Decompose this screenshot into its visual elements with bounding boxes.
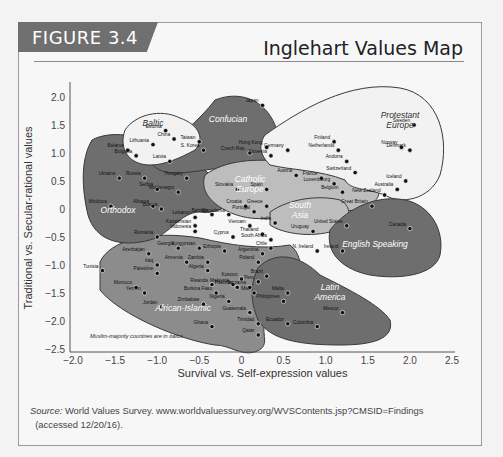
point-label: Azerbaijan [122,247,145,252]
point-marker [286,322,290,326]
point-marker [382,193,386,197]
point-marker [260,103,264,107]
point-marker [155,263,159,267]
point-label: Chile [256,241,267,246]
point-label: Kyrgyzstan [172,241,196,246]
point-marker [273,221,277,225]
point-marker [269,246,273,250]
y-tick-label: 2.0 [51,92,65,103]
point-marker [408,226,412,230]
point-label: Russia [126,171,141,176]
source-text: World Values Survey. www.worldvaluessurv… [62,405,423,416]
point-marker [193,224,197,228]
x-tick-label: 0.5 [277,355,291,366]
y-tick-label: −0.5 [45,232,65,243]
point-marker [168,159,172,163]
point-marker [176,190,180,194]
point-marker [265,187,269,191]
x-tick-label: −1.0 [147,355,167,366]
point-label: Rwanda [190,278,208,283]
x-tick-label: 0 [239,355,245,366]
y-tick-label: −1.5 [45,288,65,299]
point-marker [206,260,210,264]
point-marker [286,148,290,152]
point-label: Tunisia [83,264,99,269]
y-axis-title: Traditional vs. Secular-rational values [22,126,34,310]
point-label: United States [314,219,343,224]
point-marker [286,291,290,295]
x-tick-label: −2.0 [63,355,83,366]
point-label: Indonesia [170,224,191,229]
point-label: Mexico [323,306,339,311]
point-marker [142,176,146,180]
point-label: Romania [134,230,154,235]
point-label: Montenegro [149,185,175,190]
point-marker [269,154,273,158]
point-label: Switzerland [326,166,351,171]
point-marker [206,268,210,272]
point-label: Bulgaria [115,149,133,154]
point-label: Colombia [293,320,314,325]
y-tick-label: −2.5 [45,344,65,355]
point-label: Qatar [242,328,254,333]
point-label: Japan [245,98,258,103]
point-label: Iraq [145,258,154,263]
point-marker [231,235,235,239]
point-label: Hungary [165,171,184,176]
point-marker [172,137,176,141]
point-marker [256,322,260,326]
point-marker [210,324,214,328]
y-tick-label: 0.5 [51,176,65,187]
point-label: Ukraine [99,171,116,176]
point-marker [197,246,201,250]
point-marker [256,280,260,284]
point-marker [340,190,344,194]
point-marker [134,154,138,158]
y-tick-label: −2.0 [45,316,65,327]
x-axis-title: Survival vs. Self-expression values [178,367,348,379]
point-marker [315,324,319,328]
values-map-chart: JapanEstoniaLithuaniaChinaTaiwanS. Korea… [0,0,503,457]
point-label: Burkina Faso [184,286,213,291]
point-marker [269,238,273,242]
point-label: Andorra [326,154,343,159]
region-label: Confucian [209,114,248,124]
point-marker [353,170,357,174]
region-label: Baltic [143,118,165,128]
point-label: Ecuador [266,317,284,322]
point-label: Nigeria [210,294,226,299]
point-label: Brazil [251,269,263,274]
point-marker [235,285,239,289]
point-label: Malta [272,286,284,291]
point-label: Tanzania [227,280,247,285]
point-label: Kosovo [221,272,237,277]
region-label: CatholicEurope [235,174,266,194]
source-note: Source: World Values Survey. www.worldva… [30,404,470,432]
point-label: Belarus [107,143,124,148]
x-tick-label: 1.5 [361,355,375,366]
point-label: Poland [239,255,254,260]
region-label: English Speaking [342,239,408,249]
point-label: Iceland [386,174,402,179]
y-tick-label: 1.5 [51,120,65,131]
point-label: Slovenia [249,149,268,154]
point-label: Lithuania [130,138,150,143]
point-marker [395,187,399,191]
x-tick-label: −0.5 [189,355,209,366]
point-label: China [158,132,171,137]
point-marker [281,299,285,303]
point-marker [227,299,231,303]
point-label: Palestine [133,266,153,271]
point-marker [265,204,269,208]
point-marker [403,179,407,183]
region-label: SouthAsia [289,200,311,220]
point-marker [340,249,344,253]
point-label: Australia [375,182,394,187]
point-label: Portugal [232,205,250,210]
point-label: Denmark [386,143,406,148]
x-tick-label: 2.0 [403,355,417,366]
point-label: Belgium [321,185,338,190]
point-label: Morocco [114,280,133,285]
point-label: Peru [244,275,254,280]
point-marker [345,159,349,163]
